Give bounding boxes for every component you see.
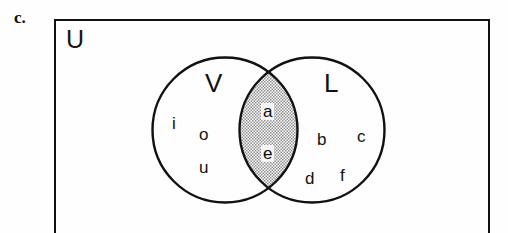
venn-diagram-figure: c. U V L i o u a e b (0, 0, 508, 233)
member-intersection: a (261, 103, 274, 120)
set-label-v: V (205, 70, 222, 96)
member-l-only: d (305, 170, 314, 187)
universal-set-rectangle (54, 19, 490, 233)
member-intersection: e (261, 145, 274, 162)
member-v-only: o (199, 126, 208, 143)
member-l-only: f (340, 167, 345, 184)
set-label-l: L (324, 70, 338, 96)
member-l-only: b (317, 131, 326, 148)
problem-label: c. (14, 9, 26, 26)
universal-set-label: U (66, 27, 84, 52)
member-l-only: c (357, 128, 366, 145)
member-v-only: u (199, 159, 208, 176)
member-v-only: i (172, 115, 176, 132)
